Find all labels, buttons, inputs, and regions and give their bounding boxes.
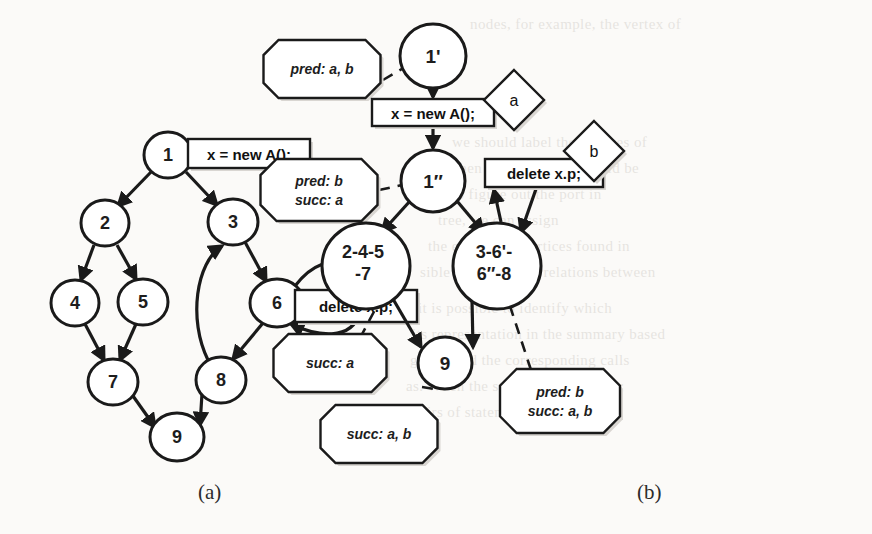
edge-delete-to-right [521,189,536,232]
edge-left-to-9 [393,299,421,347]
diamond-label: b [590,143,599,160]
annotation-line: succ: a [295,192,343,208]
annotation-line: succ: a, b [347,426,412,442]
leader-pred-b-succ-ab [509,303,531,370]
ann-pred-ab: pred: a, b [264,40,384,101]
statement-text: x = new A(); [391,105,475,122]
ann-succ-a: succ: a [274,334,390,395]
diamond-label: a [510,92,519,109]
ann-succ-ab: succ: a, b [321,405,441,466]
annotation-line: succ: a, b [528,403,593,419]
ann-pred-b-succ-ab: pred: bsucc: a, b [500,369,623,436]
annotation-line: succ: a [306,355,354,371]
annotation-line: pred: b [294,173,343,189]
node-label-line: -7 [355,264,371,284]
node-label-line: 2-4-5 [342,242,384,262]
node-label: 1' [425,46,440,67]
caption-panel-b: (b) [637,480,662,505]
node-label: 1″ [423,171,443,192]
statement-text: delete x.p; [507,165,581,182]
annotation-line: pred: b [535,384,584,400]
edge-right-to-delete [494,190,501,222]
figure-canvas: nodes, for example, the vertex ofwe shou… [0,0,872,534]
ann-pred-b-succ-a: pred: bsucc: a [261,159,381,224]
annotation-line: pred: a, b [289,61,353,77]
node-label-line: 6″-8 [477,264,512,284]
b-stmt-new: x = new A(); [372,99,497,129]
node-label: 9 [440,353,451,374]
panel-b-graph: pred: a, bpred: bsucc: asucc: asucc: a, … [0,0,872,500]
node-label-line: 3-6'- [476,242,512,262]
edge-right-to-9 [472,300,473,347]
leader-pred-b-succ-a [379,185,402,190]
